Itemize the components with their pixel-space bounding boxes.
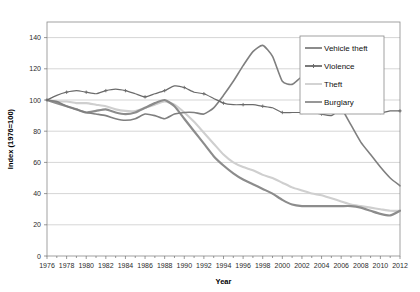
chart-legend: Vehicle theftViolenceTheftBurglary [300, 36, 384, 114]
y-tick-label: 80 [33, 128, 41, 135]
x-tick-label: 1978 [59, 262, 75, 269]
legend-label: Violence [324, 62, 355, 71]
x-axis-ticks: 1976197819801982198419861988199019921994… [39, 256, 408, 269]
x-tick-label: 1996 [235, 262, 251, 269]
y-tick-label: 100 [29, 97, 41, 104]
x-tick-label: 2000 [275, 262, 291, 269]
x-tick-label: 1990 [176, 262, 192, 269]
y-tick-label: 60 [33, 159, 41, 166]
x-tick-label: 1976 [39, 262, 55, 269]
x-tick-label: 2002 [294, 262, 310, 269]
x-tick-label: 1998 [255, 262, 271, 269]
y-tick-label: 140 [29, 34, 41, 41]
y-tick-label: 40 [33, 190, 41, 197]
legend-label: Vehicle theft [324, 44, 368, 53]
x-tick-label: 2004 [314, 262, 330, 269]
y-axis-ticks: 020406080100120140 [29, 34, 47, 259]
x-tick-label: 2012 [392, 262, 408, 269]
x-tick-label: 1988 [157, 262, 173, 269]
x-axis-title: Year [216, 277, 232, 286]
line-chart: 020406080100120140 197619781980198219841… [0, 0, 420, 292]
x-tick-label: 1986 [137, 262, 153, 269]
y-tick-label: 20 [33, 221, 41, 228]
x-tick-label: 1982 [98, 262, 114, 269]
y-tick-label: 120 [29, 65, 41, 72]
x-tick-label: 2006 [333, 262, 349, 269]
x-tick-label: 1992 [196, 262, 212, 269]
legend-label: Burglary [324, 98, 354, 107]
legend-label: Theft [324, 80, 343, 89]
x-tick-label: 1984 [118, 262, 134, 269]
y-tick-label: 0 [37, 253, 41, 260]
x-tick-label: 1994 [216, 262, 232, 269]
x-tick-label: 2008 [353, 262, 369, 269]
x-tick-label: 1980 [78, 262, 94, 269]
chart-container: 020406080100120140 197619781980198219841… [0, 0, 420, 292]
x-tick-label: 2010 [373, 262, 389, 269]
y-axis-title: Index (1976=100) [6, 108, 15, 169]
